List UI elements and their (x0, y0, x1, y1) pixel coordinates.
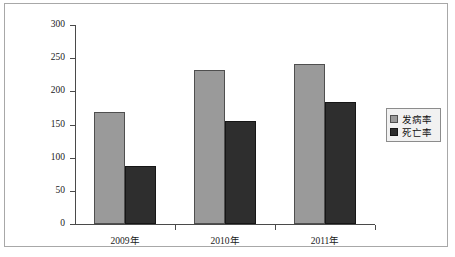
bar-2011年-发病率[interactable] (294, 64, 325, 224)
y-axis-tick-mark (70, 224, 75, 225)
chart-frame: 050100150200250300 2009年2010年2011年 发病率死亡… (4, 3, 448, 247)
y-axis-tick: 0 (70, 224, 75, 225)
legend-label: 死亡率 (402, 125, 432, 139)
y-axis-tick-label: 100 (51, 151, 70, 164)
x-axis-tick (375, 225, 376, 230)
y-axis-tick-label: 0 (60, 217, 70, 230)
legend-swatch-icon (390, 128, 398, 136)
bar-2011年-死亡率[interactable] (325, 102, 356, 224)
y-axis-tick-label: 200 (51, 84, 70, 97)
x-axis-line (75, 224, 375, 225)
legend-item-死亡率[interactable]: 死亡率 (390, 125, 436, 138)
bar-2010年-死亡率[interactable] (225, 121, 256, 224)
x-axis-tick (175, 225, 176, 230)
bar-2010年-发病率[interactable] (194, 70, 225, 224)
y-axis-tick-label: 250 (51, 51, 70, 64)
y-axis-tick-label: 300 (51, 18, 70, 31)
legend-label: 发病率 (402, 112, 432, 126)
x-axis-label-2009年: 2009年 (75, 235, 175, 248)
x-axis-label-2010年: 2010年 (175, 235, 275, 248)
legend-item-发病率[interactable]: 发病率 (390, 112, 436, 125)
legend-swatch-icon (390, 115, 398, 123)
plot-area (75, 25, 375, 224)
chart-legend[interactable]: 发病率死亡率 (386, 108, 441, 142)
y-axis-tick-label: 150 (51, 118, 70, 131)
y-axis-tick-label: 50 (56, 184, 71, 197)
x-axis-tick (275, 225, 276, 230)
x-axis-label-2011年: 2011年 (275, 235, 375, 248)
bar-2009年-发病率[interactable] (94, 112, 125, 224)
bar-2009年-死亡率[interactable] (125, 166, 156, 224)
